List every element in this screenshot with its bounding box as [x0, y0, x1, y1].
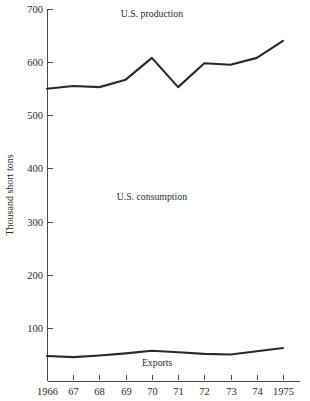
y-axis-title-text: Thousand short tons — [4, 154, 15, 235]
line-chart: 100200300400500600700 196667686970717273… — [0, 0, 310, 401]
y-axis-title: Thousand short tons — [4, 154, 15, 235]
x-tick-label: 1975 — [273, 386, 294, 397]
y-tick-label: 400 — [27, 163, 43, 174]
x-tick-label: 72 — [199, 386, 210, 397]
x-tick-label: 70 — [147, 386, 158, 397]
series-annotation-exports: Exports — [142, 357, 173, 368]
y-axis-ticks — [48, 10, 53, 329]
x-tick-label: 1966 — [37, 386, 58, 397]
y-tick-label: 600 — [27, 57, 43, 68]
y-tick-label: 300 — [27, 217, 43, 228]
x-tick-label: 73 — [226, 386, 237, 397]
y-tick-label: 200 — [27, 270, 43, 281]
series-annotation-u-s-production: U.S. production — [121, 8, 183, 19]
x-tick-label: 69 — [121, 386, 132, 397]
y-axis-tick-labels: 100200300400500600700 — [27, 4, 43, 334]
x-tick-label: 71 — [173, 386, 184, 397]
series-line-exports — [47, 348, 283, 357]
series-line-u-s-production — [47, 41, 283, 89]
x-tick-label: 67 — [68, 386, 79, 397]
chart-annotations: U.S. productionU.S. consumptionExports — [117, 8, 188, 368]
y-tick-label: 100 — [27, 323, 43, 334]
y-tick-label: 700 — [27, 4, 43, 15]
x-axis-tick-labels: 196667686970717273741975 — [37, 386, 294, 397]
x-tick-label: 74 — [252, 386, 263, 397]
x-tick-label: 68 — [94, 386, 105, 397]
x-axis-ticks — [74, 375, 284, 380]
y-tick-label: 500 — [27, 110, 43, 121]
chart-figure: 100200300400500600700 196667686970717273… — [0, 0, 310, 401]
series-annotation-u-s-consumption: U.S. consumption — [117, 191, 188, 202]
